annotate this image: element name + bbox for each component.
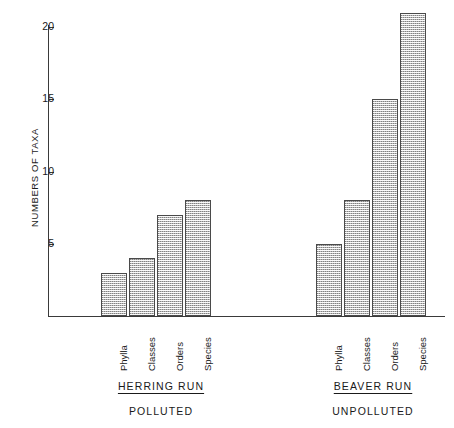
right-group-title: BEAVER RUN: [298, 380, 448, 392]
bar-chart: NUMBERS OF TAXA 2015105 PhyllaClassesOrd…: [0, 0, 454, 428]
y-tick-label-wrap: 5: [0, 244, 54, 245]
y-axis-label: NUMBERS OF TAXA: [29, 98, 40, 258]
y-tick-label-10: 10: [28, 165, 54, 177]
x-category-label-herring-run-species: Species: [202, 337, 213, 371]
x-category-label-beaver-run-classes: Classes: [361, 337, 372, 371]
x-category-label-herring-run-classes: Classes: [146, 337, 157, 371]
bar-herring-run-orders: [157, 215, 183, 316]
bar-beaver-run-species: [400, 13, 426, 316]
right-group-subtitle: UNPOLLUTED: [298, 405, 448, 417]
y-tick-label-wrap: 15: [0, 99, 54, 100]
y-tick-label-wrap: 10: [0, 172, 54, 173]
bar-beaver-run-classes: [344, 200, 370, 316]
bar-herring-run-phylla: [101, 273, 127, 316]
bar-beaver-run-orders: [372, 99, 398, 316]
x-category-label-beaver-run-orders: Orders: [389, 342, 400, 371]
y-tick-label-20: 20: [28, 20, 54, 32]
left-group-title: HERRING RUN: [86, 380, 236, 392]
y-tick-label-15: 15: [28, 92, 54, 104]
left-group-subtitle: POLLUTED: [86, 405, 236, 417]
x-axis-line: [48, 316, 445, 317]
x-category-label-herring-run-orders: Orders: [174, 342, 185, 371]
x-category-label-beaver-run-phylla: Phylla: [333, 345, 344, 371]
bar-herring-run-species: [185, 200, 211, 316]
x-category-label-herring-run-phylla: Phylla: [118, 345, 129, 371]
x-category-label-beaver-run-species: Species: [417, 337, 428, 371]
y-tick-label-5: 5: [28, 237, 54, 249]
y-tick-label-wrap: 20: [0, 27, 54, 28]
bar-beaver-run-phylla: [316, 244, 342, 316]
bar-herring-run-classes: [129, 258, 155, 316]
